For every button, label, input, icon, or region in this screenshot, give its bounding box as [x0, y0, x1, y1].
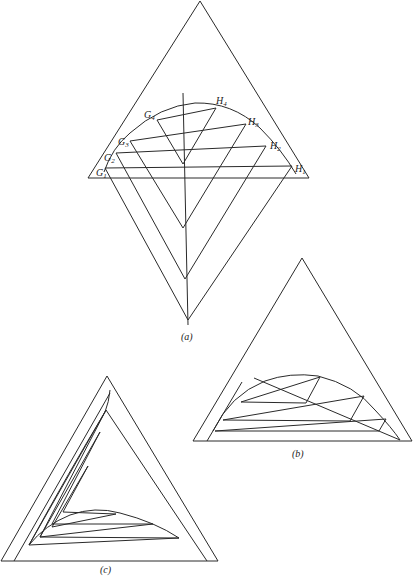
tie-line-b2	[223, 396, 364, 420]
label-h3: H3	[247, 116, 259, 129]
figure-canvas: G1 G2 G3 G4 H1 H2 H3 H4 (a) (b)	[0, 0, 417, 580]
label-g4: G4	[144, 109, 155, 122]
nested-tri-3-base	[52, 514, 116, 527]
tie-link-b2	[350, 396, 364, 421]
v-line-3	[130, 124, 246, 228]
tie-line-b2-h	[223, 420, 350, 421]
binodal-curve-a	[104, 103, 296, 174]
cut-off-caption-text	[0, 574, 417, 580]
panel-a: G1 G2 G3 G4 H1 H2 H3 H4 (a)	[88, 1, 309, 343]
ternary-triangle-b	[193, 258, 412, 441]
nested-tri-3	[63, 466, 116, 514]
inner-left-c	[14, 393, 110, 561]
label-g3: G3	[118, 136, 129, 149]
label-g2: G2	[104, 152, 115, 165]
tie-line-b1-h	[241, 402, 306, 403]
tie-line-g1h1	[105, 166, 292, 168]
nested-tri-3-left	[52, 466, 88, 527]
ternary-triangle-c	[1, 376, 218, 561]
plait-curve-c	[29, 390, 110, 545]
nested-tri-2-left	[40, 432, 100, 537]
label-h2: H2	[269, 140, 281, 153]
tie-line-g3h3	[130, 124, 246, 141]
nested-tri-1-base	[29, 538, 179, 545]
v-line-2	[116, 146, 266, 279]
axis-line-a	[183, 93, 188, 325]
ternary-triangle-a	[88, 1, 309, 178]
panel-c: (c)	[1, 376, 218, 576]
v-line-1	[105, 166, 292, 320]
caption-a: (a)	[181, 331, 193, 343]
caption-b: (b)	[292, 448, 304, 460]
panel-b: (b)	[193, 258, 412, 460]
inner-right-c	[106, 410, 207, 561]
tie-link-b3	[379, 419, 386, 431]
